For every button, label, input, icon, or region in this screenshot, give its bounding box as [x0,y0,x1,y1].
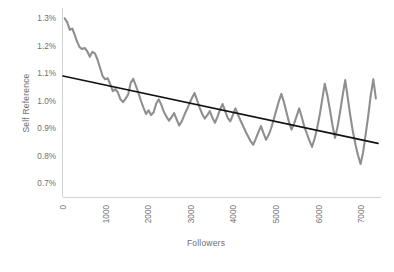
chart-container: 1.3%1.2%1.1%1.0%0.9%0.8%0.7% 01000200030… [0,0,394,272]
y-tick-label: 1.3% [37,14,56,23]
y-tick-label: 0.8% [37,152,56,161]
y-tick-label: 0.7% [37,179,56,188]
x-tick-label: 2000 [144,205,153,224]
x-tick-label: 6000 [315,205,324,224]
scatter-line-chart: 1.3%1.2%1.1%1.0%0.9%0.8%0.7% 01000200030… [0,0,394,272]
x-tick-label: 4000 [229,205,238,224]
x-tick-label: 1000 [102,205,111,224]
y-tick-label: 1.0% [37,97,56,106]
y-tick-label: 1.1% [37,69,56,78]
x-tick-label: 7000 [357,205,366,224]
y-tick-label: 1.2% [37,42,56,51]
y-axis-title: Self Reference [21,73,31,132]
x-axis-title: Followers [187,238,225,248]
x-tick-label: 0 [59,205,68,210]
y-tick-label: 0.9% [37,124,56,133]
x-tick-label: 5000 [272,205,281,224]
x-tick-label: 3000 [187,205,196,224]
